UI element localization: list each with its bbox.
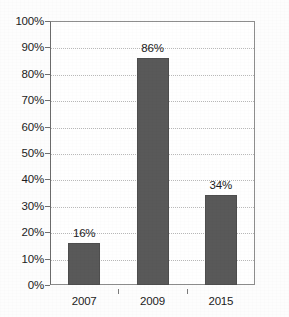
- y-axis-tick-label: 20%: [0, 226, 44, 238]
- y-axis-tick-label: 0%: [0, 279, 44, 291]
- y-axis-tick-mark: [45, 74, 50, 75]
- y-axis-tick-mark: [45, 259, 50, 260]
- x-axis-tick-label: 2007: [72, 295, 97, 307]
- y-axis-tick-mark: [45, 179, 50, 180]
- y-axis-tick-mark: [45, 100, 50, 101]
- bar-chart: 0%10%20%30%40%50%60%70%80%90%100% 16%86%…: [0, 0, 289, 317]
- y-axis-tick-mark: [45, 21, 50, 22]
- y-axis: 0%10%20%30%40%50%60%70%80%90%100%: [0, 0, 44, 317]
- y-axis-tick-mark: [45, 232, 50, 233]
- bar: [205, 195, 237, 285]
- y-axis-tick-label: 40%: [0, 173, 44, 185]
- y-axis-tick-label: 10%: [0, 253, 44, 265]
- bar: [137, 58, 169, 285]
- y-axis-tick-label: 80%: [0, 68, 44, 80]
- x-axis-tick-mark: [118, 289, 119, 294]
- x-axis-tick-mark: [187, 289, 188, 294]
- y-axis-tick-mark: [45, 206, 50, 207]
- y-axis-tick-label: 90%: [0, 41, 44, 53]
- y-axis-tick-label: 70%: [0, 94, 44, 106]
- y-axis-tick-mark: [45, 127, 50, 128]
- y-axis-tick-mark: [45, 285, 50, 286]
- x-axis: 200720092015: [50, 289, 255, 317]
- y-axis-tick-mark: [45, 47, 50, 48]
- y-axis-tick-mark: [45, 153, 50, 154]
- bar-value-label: 34%: [191, 179, 251, 191]
- x-axis-tick-label: 2009: [140, 295, 165, 307]
- y-axis-tick-label: 30%: [0, 200, 44, 212]
- x-axis-tick-label: 2015: [208, 295, 233, 307]
- bar-value-label: 16%: [54, 227, 114, 239]
- bar-value-label: 86%: [123, 42, 183, 54]
- y-axis-tick-label: 60%: [0, 121, 44, 133]
- bar: [68, 243, 100, 285]
- y-axis-tick-label: 50%: [0, 147, 44, 159]
- y-axis-tick-label: 100%: [0, 15, 44, 27]
